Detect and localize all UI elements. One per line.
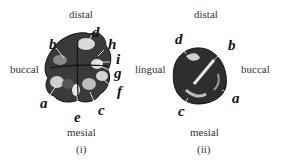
direction-mesial-ii: mesial: [190, 126, 219, 138]
label-b-i: b: [49, 37, 57, 52]
direction-distal-ii: distal: [194, 8, 218, 20]
label-e-i: e: [74, 110, 81, 125]
direction-buccal-ii: buccal: [241, 63, 270, 75]
label-c-i: c: [98, 103, 105, 118]
caption-i: (i): [76, 143, 86, 155]
label-b-ii: b: [228, 38, 236, 53]
label-d-i: d: [92, 25, 100, 40]
direction-lingual-ii: lingual: [135, 63, 166, 75]
direction-buccal-i: buccal: [10, 63, 39, 75]
label-a-i: a: [40, 96, 48, 111]
tooth-illustrations: [0, 0, 286, 166]
label-i-i: i: [116, 52, 120, 67]
label-c-ii: c: [178, 104, 185, 119]
direction-distal-i: distal: [69, 8, 93, 20]
label-f-i: f: [117, 84, 122, 99]
premolar-occlusal-view: [173, 44, 232, 106]
caption-ii: (ii): [197, 143, 210, 155]
label-d-ii: d: [175, 32, 183, 47]
label-a-ii: a: [232, 91, 240, 106]
direction-mesial-i: mesial: [67, 126, 96, 138]
label-g-i: g: [114, 66, 122, 81]
label-h-i: h: [108, 37, 116, 52]
